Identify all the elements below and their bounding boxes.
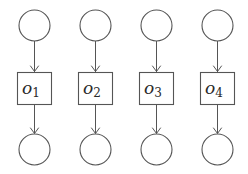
bottom-circle-node-2 — [80, 134, 111, 165]
top-circle-node-1 — [19, 10, 50, 41]
column-2: o2 — [79, 10, 113, 165]
top-circle-node-3 — [141, 10, 172, 41]
column-3: o3 — [140, 10, 174, 165]
column-4: o4 — [201, 10, 235, 165]
bottom-circle-node-4 — [202, 134, 233, 165]
column-1: o1 — [18, 10, 52, 165]
bottom-circle-node-3 — [141, 134, 172, 165]
diagram-canvas: o1 o2 o3 o4 — [0, 0, 248, 174]
top-circle-node-4 — [202, 10, 233, 41]
bottom-circle-node-1 — [19, 134, 50, 165]
top-circle-node-2 — [80, 10, 111, 41]
